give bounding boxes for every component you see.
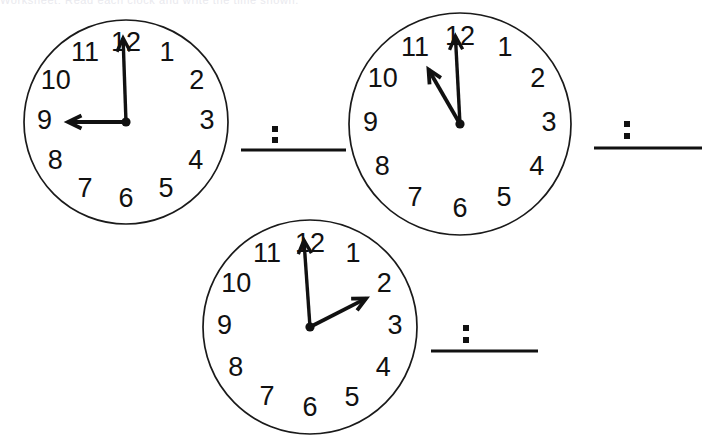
clock-face-3-numeral-4: 4 <box>376 352 391 382</box>
clock-face-2-numeral-10: 10 <box>368 63 398 93</box>
clock-face-1-numeral-3: 3 <box>199 105 214 135</box>
clock-face-1-numeral-5: 5 <box>158 173 173 203</box>
clock-face-1-numeral-1: 1 <box>159 37 174 67</box>
clock-group-2: 121234567891011 <box>349 13 571 235</box>
clock-face-2-center-hub <box>455 119 464 128</box>
clock-face-2-numeral-11: 11 <box>401 32 429 62</box>
clock-face-3-numeral-1: 1 <box>345 238 360 268</box>
clock-face-2-numeral-5: 5 <box>496 182 511 212</box>
clock-face-2-numeral-2: 2 <box>530 63 545 93</box>
clock-face-3-numeral-10: 10 <box>221 268 251 298</box>
answer-blank-3-colon-dot-lower <box>463 337 469 343</box>
answer-blank-1-colon-dot-upper <box>272 126 278 132</box>
answer-blank-1[interactable] <box>241 126 346 150</box>
clocks-and-answers-layer: 1212345678910111212345678910111212345678… <box>0 0 713 441</box>
clock-face-3-numeral-9: 9 <box>217 310 232 340</box>
clock-face-1-numeral-11: 11 <box>71 37 99 67</box>
worksheet-page: Worksheet: Read each clock and write the… <box>0 0 713 441</box>
clock-face-2-numeral-8: 8 <box>375 151 390 181</box>
clock-group-3: 121234567891011 <box>203 220 417 434</box>
clock-face-2-numeral-3: 3 <box>541 107 556 137</box>
clock-face-3-numeral-2: 2 <box>377 268 392 298</box>
clock-face-1-numeral-4: 4 <box>188 145 203 175</box>
answer-blank-2[interactable] <box>594 121 702 148</box>
clock-face-3-center-hub <box>305 322 314 331</box>
answer-blank-3[interactable] <box>431 325 538 351</box>
clock-group-1: 121234567891011 <box>24 20 228 224</box>
clock-face-1-numeral-2: 2 <box>189 65 204 95</box>
clock-face-2-numeral-9: 9 <box>363 107 378 137</box>
answer-blank-3-colon-dot-upper <box>463 325 469 331</box>
clock-face-2-numeral-4: 4 <box>529 151 544 181</box>
clock-face-1-numeral-6: 6 <box>118 183 133 213</box>
clock-face-2-numeral-1: 1 <box>497 32 512 62</box>
clock-face-1-numeral-7: 7 <box>77 173 92 203</box>
clock-face-3-numeral-8: 8 <box>228 352 243 382</box>
clock-face-2-numeral-7: 7 <box>407 182 422 212</box>
answer-blank-2-colon-dot-lower <box>624 133 630 139</box>
answer-blank-1-colon-dot-lower <box>272 137 278 143</box>
clock-face-1-numeral-9: 9 <box>37 105 52 135</box>
clock-face-3-numeral-3: 3 <box>387 310 402 340</box>
clock-face-1-center-hub <box>121 117 130 126</box>
clock-face-3-numeral-7: 7 <box>259 381 274 411</box>
clock-face-1-numeral-8: 8 <box>48 145 63 175</box>
clock-face-2-numeral-6: 6 <box>452 193 467 223</box>
clock-face-3-numeral-6: 6 <box>302 392 317 422</box>
clock-face-3-numeral-11: 11 <box>253 238 281 268</box>
clock-face-1-numeral-10: 10 <box>41 65 71 95</box>
answer-blank-2-colon-dot-upper <box>624 121 630 127</box>
clock-face-3-numeral-5: 5 <box>344 382 359 412</box>
